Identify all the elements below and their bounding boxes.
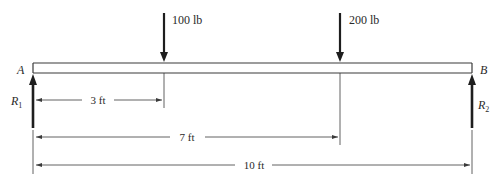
support-label-a: A <box>16 63 25 77</box>
load-arrow-200lb <box>336 13 344 62</box>
load-label-100lb: 100 lb <box>172 13 202 27</box>
arrow-down-icon <box>336 52 344 62</box>
load-label-200lb: 200 lb <box>349 13 379 27</box>
reaction-arrow-r1 <box>29 74 37 128</box>
load-arrow-100lb <box>160 13 168 62</box>
reaction-label-r1: R1 <box>10 94 22 110</box>
beam <box>33 63 472 73</box>
reaction-arrow-r2 <box>468 74 476 128</box>
arrow-down-icon <box>160 52 168 62</box>
support-label-b: B <box>480 63 488 77</box>
beam-diagram: 100 lb 200 lb A B R1 R2 3 ft 7 ft <box>0 0 504 187</box>
dimension-label-7ft: 7 ft <box>180 131 195 143</box>
arrow-up-icon <box>29 74 37 85</box>
reaction-label-r2: R2 <box>477 98 489 114</box>
dimension-label-10ft: 10 ft <box>244 159 264 171</box>
arrow-up-icon <box>468 74 476 85</box>
dimension-label-3ft: 3 ft <box>91 94 106 106</box>
